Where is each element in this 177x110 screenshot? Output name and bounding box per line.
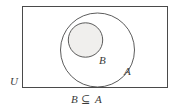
- set-b-circle: [68, 23, 102, 57]
- figure-caption: B ⊆ A: [71, 93, 102, 105]
- set-b-label: B: [99, 54, 106, 66]
- caption-right-operand: A: [94, 93, 102, 105]
- caption-left-operand: B: [71, 93, 78, 105]
- venn-diagram-figure: U B A B ⊆ A: [0, 0, 177, 110]
- subset-operator-icon: ⊆: [81, 93, 90, 105]
- venn-diagram-canvas: U B A B ⊆ A: [0, 0, 177, 110]
- universal-set-label: U: [10, 75, 19, 87]
- set-a-label: A: [123, 65, 131, 77]
